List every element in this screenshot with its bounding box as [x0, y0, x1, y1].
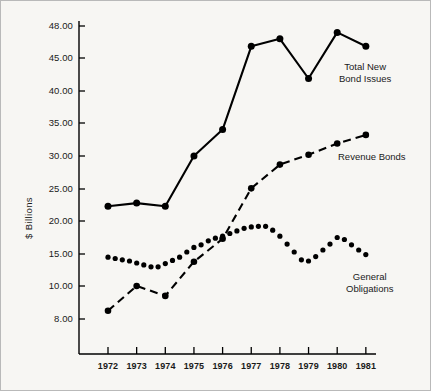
- series-label-revenue: Revenue Bonds: [338, 151, 406, 163]
- y-tick-label-45-00: 45.00: [35, 52, 73, 63]
- chart-axes: [79, 21, 376, 354]
- x-tick-label-1977: 1977: [235, 361, 267, 371]
- y-axis-title: $ Billions: [23, 197, 34, 239]
- x-tick-label-1973: 1973: [121, 361, 153, 371]
- x-tick-label-1976: 1976: [207, 361, 239, 371]
- y-tick-label-30-00: 30.00: [35, 150, 73, 161]
- series-label-revenue-bonds: Revenue Bonds: [338, 151, 406, 163]
- y-tick-label-40-00: 40.00: [35, 85, 73, 96]
- y-tick-label-48-00: 48.00: [35, 20, 73, 31]
- x-tick-label-1972: 1972: [92, 361, 124, 371]
- chart-figure: 48.0045.0040.0035.0030.0025.0020.0015.00…: [0, 0, 431, 391]
- x-tick-label-1978: 1978: [264, 361, 296, 371]
- x-tick-label-1981: 1981: [350, 361, 382, 371]
- x-tick-label-1980: 1980: [321, 361, 353, 371]
- y-tick-label-10-00: 10.00: [35, 280, 73, 291]
- series-label-general-line2: Obligations: [346, 283, 394, 295]
- chart-series: [105, 29, 370, 314]
- y-tick-label-25-00: 25.00: [35, 183, 73, 194]
- x-tick-label-1979: 1979: [293, 361, 325, 371]
- y-tick-label-20-00: 20.00: [35, 215, 73, 226]
- series-label-general-line1: General: [346, 271, 394, 283]
- y-tick-label-35-00: 35.00: [35, 117, 73, 128]
- series-label-total-line2: Bond Issues: [339, 73, 391, 85]
- x-tick-label-1975: 1975: [178, 361, 210, 371]
- y-tick-label-8-00: 8.00: [35, 313, 73, 324]
- y-axis-title-wrap: $ Billions: [11, 151, 25, 241]
- series-label-total-line1: Total New: [339, 61, 391, 73]
- x-tick-label-1974: 1974: [149, 361, 181, 371]
- y-tick-label-15-00: 15.00: [35, 248, 73, 259]
- series-label-general-obligations: General Obligations: [346, 271, 394, 295]
- series-label-total-new-bond-issues: Total New Bond Issues: [339, 61, 391, 85]
